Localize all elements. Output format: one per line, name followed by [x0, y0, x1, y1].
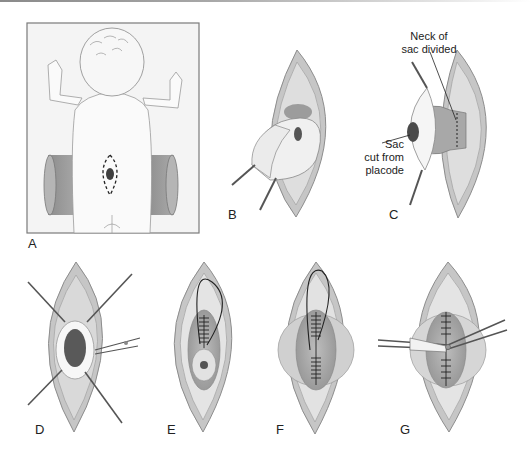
callout-sac-cut: Sac cut from placode — [356, 138, 404, 177]
panel-c — [382, 50, 486, 218]
panel-b — [232, 50, 326, 217]
callout-sac-line1: Sac — [356, 138, 404, 151]
panel-label-a: A — [28, 236, 37, 251]
callout-neck-line1: Neck of — [394, 30, 464, 43]
panel-label-b: B — [228, 207, 237, 222]
lesion — [106, 168, 114, 180]
panel-a — [27, 23, 199, 233]
panel-label-g: G — [400, 422, 410, 437]
panel-d — [28, 262, 140, 432]
panel-g — [378, 262, 507, 432]
panel-label-c: C — [389, 207, 398, 222]
panel-label-e: E — [167, 422, 176, 437]
panel-f — [278, 262, 354, 434]
panel-label-f: F — [276, 422, 284, 437]
callout-neck-line2: sac divided — [394, 43, 464, 56]
callout-sac-line2: cut from — [356, 151, 404, 164]
panel-label-d: D — [35, 422, 44, 437]
callout-neck-of-sac: Neck of sac divided — [394, 30, 464, 56]
callout-sac-line3: placode — [356, 164, 404, 177]
panel-e — [174, 262, 232, 432]
illustration-canvas — [0, 0, 531, 453]
